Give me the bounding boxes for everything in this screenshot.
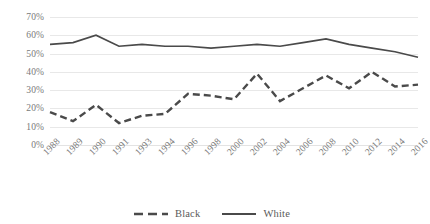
legend-item-black[interactable]: Black <box>134 208 201 219</box>
x-tick-label: 2010 <box>340 136 361 157</box>
x-tick-label: 2008 <box>317 136 338 157</box>
legend-swatch-white-icon <box>222 210 256 218</box>
x-tick-label: 2004 <box>271 136 292 157</box>
x-tick-label: 1988 <box>41 136 62 157</box>
legend-label: Black <box>175 208 201 219</box>
x-tick-label: 2006 <box>294 136 315 157</box>
x-tick-label: 1998 <box>202 136 223 157</box>
legend-label: White <box>263 208 290 219</box>
x-tick-label: 1989 <box>64 136 85 157</box>
chart-legend: BlackWhite <box>0 208 424 219</box>
x-tick-label: 1990 <box>87 136 108 157</box>
x-tick-label: 2012 <box>363 136 384 157</box>
x-tick-label: 2002 <box>248 136 269 157</box>
x-tick-label: 2016 <box>409 136 430 157</box>
legend-swatch-black-icon <box>134 210 168 218</box>
x-tick-label: 1991 <box>110 136 131 157</box>
legend-item-white[interactable]: White <box>222 208 290 219</box>
x-tick-label: 2000 <box>225 136 246 157</box>
x-tick-label: 1994 <box>156 136 177 157</box>
x-tick-label: 2014 <box>386 136 407 157</box>
x-tick-label: 1996 <box>179 136 200 157</box>
x-tick-label: 1993 <box>133 136 154 157</box>
